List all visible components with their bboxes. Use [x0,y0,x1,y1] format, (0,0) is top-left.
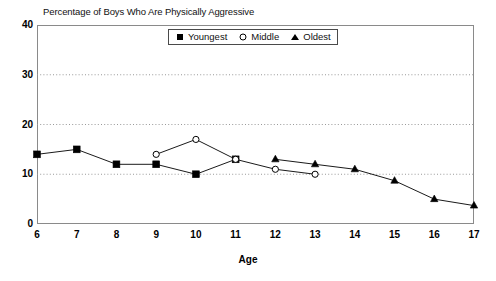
filled-triangle-icon [290,33,299,42]
x-tick-label: 9 [143,230,169,240]
x-tick-label: 16 [421,230,447,240]
x-tick-label: 15 [382,230,408,240]
y-tick-label: 0 [3,219,33,229]
plot-area [37,25,474,224]
x-tick-label: 7 [64,230,90,240]
x-axis-title: Age [0,254,496,265]
x-tick-label: 8 [103,230,129,240]
x-tick-label: 6 [24,230,50,240]
y-tick-label: 40 [3,20,33,30]
legend-label: Youngest [188,32,227,42]
legend-label: Middle [251,32,279,42]
chart-legend: YoungestMiddleOldest [168,29,338,45]
legend-label: Oldest [303,32,330,42]
legend-entry-oldest: Oldest [290,32,330,42]
legend-entry-youngest: Youngest [175,32,227,42]
open-circle-icon [238,33,247,42]
chart-title: Percentage of Boys Who Are Physically Ag… [43,6,254,17]
x-tick-label: 11 [223,230,249,240]
filled-square-icon [175,33,184,42]
y-tick-label: 10 [3,169,33,179]
x-tick-label: 12 [262,230,288,240]
y-tick-label: 20 [3,120,33,130]
y-tick-label: 30 [3,70,33,80]
x-tick-label: 10 [183,230,209,240]
chart-container: Percentage of Boys Who Are Physically Ag… [0,0,496,281]
x-tick-label: 17 [461,230,487,240]
legend-entry-middle: Middle [238,32,279,42]
x-tick-label: 13 [302,230,328,240]
x-tick-label: 14 [342,230,368,240]
